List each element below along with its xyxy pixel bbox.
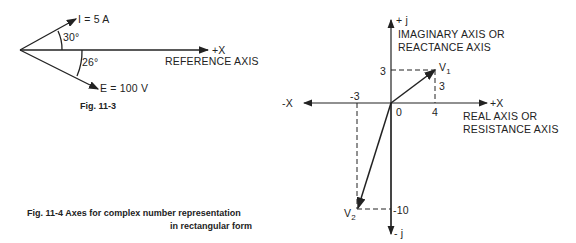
angle-30-label: 30° — [63, 31, 79, 43]
tick-y-minus-10: -10 — [393, 204, 409, 216]
origin-label: 0 — [396, 106, 402, 118]
v2-vector — [358, 103, 391, 208]
tick-x-4: 4 — [432, 106, 438, 118]
v1-height-label: 3 — [439, 80, 445, 92]
v2-label: V2 — [344, 207, 356, 221]
real-axis-label-2: RESISTANCE AXIS — [463, 123, 559, 135]
imaginary-axis-label-1: IMAGINARY AXIS OR — [398, 28, 505, 40]
fig-11-4-caption-line1: Fig. 11-4 Axes for complex number repres… — [27, 208, 241, 218]
imaginary-axis-label-2: REACTANCE AXIS — [398, 41, 491, 53]
negative-x-label: -X — [282, 97, 293, 109]
angle-26-label: 26° — [82, 56, 98, 68]
fig-11-4-caption-line2: in rectangular form — [170, 221, 252, 231]
angle-30-arc — [58, 31, 62, 50]
tick-y-3: 3 — [380, 65, 386, 77]
real-axis-label-1: REAL AXIS OR — [463, 110, 537, 122]
reference-axis-label: REFERENCE AXIS — [165, 55, 259, 67]
projection-lines — [357, 70, 435, 209]
v1-label: V1 — [439, 61, 451, 75]
negative-j-label: - j — [394, 227, 403, 239]
positive-j-label: + j — [396, 14, 408, 26]
positive-x-label: +X — [490, 97, 504, 109]
voltage-label: E = 100 V — [100, 82, 148, 94]
current-label: I = 5 A — [78, 13, 109, 25]
fig-11-3-phasors — [20, 19, 208, 89]
v1-vector — [391, 70, 435, 103]
fig-11-3-caption: Fig. 11-3 — [80, 101, 116, 111]
tick-x-minus-3: -3 — [350, 90, 360, 102]
